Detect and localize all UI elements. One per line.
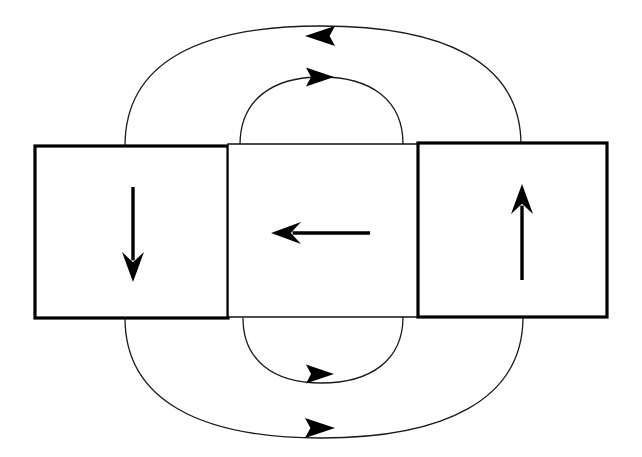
outer-top-field-line	[125, 26, 521, 146]
diagram-root	[0, 0, 642, 457]
inner-bottom-arrowhead	[306, 365, 334, 384]
middle-domain	[228, 144, 418, 317]
right-domain	[418, 143, 607, 317]
outer-bottom-field-line	[125, 317, 523, 438]
outer-bottom-arrowhead	[305, 418, 335, 438]
outer-top-arrowhead	[305, 26, 335, 46]
inner-top-field-line	[240, 77, 403, 145]
magnetic-domain-diagram	[0, 0, 642, 457]
